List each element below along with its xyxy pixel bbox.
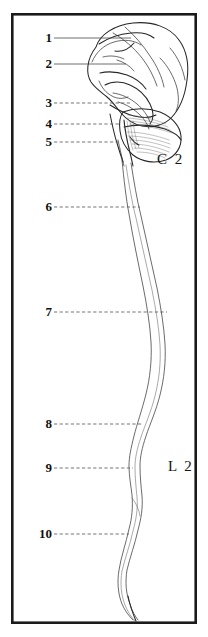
medulla-contour [118,140,124,166]
label-number-7: 7 [36,305,52,318]
occipital-gyrus-1 [160,58,178,111]
leader-lines-group [54,38,167,534]
level-marker-c2: C 2 [157,152,184,167]
parietal-sulcus-2 [103,56,124,59]
anatomical-figure: 1 2 3 4 5 6 7 8 9 10 C 2 L 2 [0,0,208,637]
parietal-sulcus-1 [117,60,134,71]
brainstem-posterior-border [124,120,133,166]
cerebrum-group [88,23,188,129]
label-number-4: 4 [36,117,52,130]
label-number-9: 9 [36,461,52,474]
level-marker-l2: L 2 [168,459,194,474]
lateral-sulcus [100,72,146,89]
label-number-5: 5 [36,135,52,148]
label-number-6: 6 [36,200,52,213]
label-number-2: 2 [36,57,52,70]
brain-spinal-cord-illustration [0,0,208,637]
label-number-10: 10 [28,527,52,540]
conus-medullaris [132,498,140,516]
spinal-dura-line [121,165,160,621]
spinal-cord-group [118,160,165,621]
upper-sulcus-dark [115,43,134,51]
label-number-8: 8 [36,417,52,430]
brainstem-group [110,114,133,166]
label-number-3: 3 [36,96,52,109]
spinal-cord-anterior-margin [118,160,151,620]
label-number-1: 1 [36,31,52,44]
precentral-gyrus [125,27,164,87]
